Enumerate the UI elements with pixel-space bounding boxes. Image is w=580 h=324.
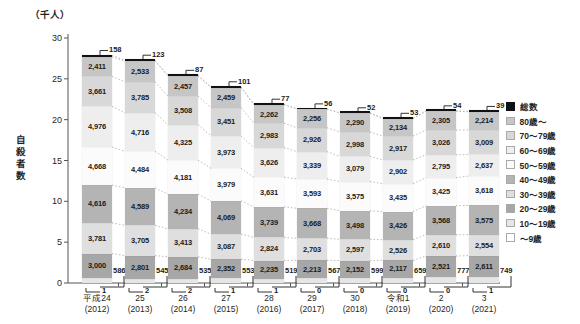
- segment-value: 3,451: [211, 117, 241, 126]
- chart-line: [456, 176, 469, 178]
- chart-line: [112, 55, 125, 60]
- bar-segment: [383, 117, 413, 119]
- segment-value: 3,339: [297, 161, 327, 170]
- segment-value: 3,668: [297, 219, 327, 228]
- legend-item: 80歳～: [506, 114, 556, 129]
- chart-line: [155, 60, 168, 75]
- cap-value: 123: [152, 50, 165, 59]
- chart-line: [284, 104, 297, 109]
- segment-value: 3,626: [254, 158, 284, 167]
- chart-line: [327, 109, 340, 113]
- annotation-bracket: [258, 288, 272, 292]
- segment-value: 2,152: [340, 265, 370, 274]
- segment-value: 3,973: [211, 148, 241, 157]
- legend-item: 50～59歳: [506, 157, 556, 172]
- value-10-19: 553: [242, 266, 255, 275]
- chart-line: [370, 113, 383, 118]
- legend-label: 総数: [520, 100, 538, 112]
- chart-line: [413, 256, 426, 260]
- value-10-19: 749: [500, 266, 513, 275]
- chart-line: [327, 109, 340, 113]
- chart-line: [284, 123, 297, 127]
- segment-value: 3,785: [125, 93, 155, 102]
- value-10-19: 586: [113, 266, 126, 275]
- annotation-bracket: [387, 288, 401, 292]
- chart-line: [456, 256, 469, 257]
- bar-segment: [211, 86, 241, 88]
- segment-value: 2,290: [340, 118, 370, 127]
- segment-value: 3,781: [82, 234, 112, 243]
- segment-value: 2,352: [211, 264, 241, 273]
- segment-value: 2,213: [297, 265, 327, 274]
- legend-label: 20～29歳: [520, 202, 557, 214]
- segment-value: 2,533: [125, 67, 155, 76]
- segment-value: 3,425: [426, 187, 456, 196]
- segment-value: 4,589: [125, 202, 155, 211]
- chart-line: [112, 254, 125, 256]
- segment-value: 2,117: [383, 264, 413, 273]
- chart-line: [198, 160, 211, 168]
- chart-line: [327, 238, 340, 239]
- chart-line: [112, 185, 125, 188]
- chart-line: [112, 147, 125, 151]
- segment-value: 3,026: [426, 138, 456, 147]
- segment-value: 2,611: [469, 262, 499, 271]
- annotation-bracket: [473, 288, 487, 292]
- legend-swatch: [506, 117, 515, 126]
- bar-segment: [426, 109, 456, 111]
- value-10-19: 519: [285, 266, 298, 275]
- y-tick-label: 25: [42, 74, 62, 84]
- legend-swatch: [506, 102, 515, 111]
- legend-item: 70～79歳: [506, 128, 556, 143]
- y-tick-label: 5: [42, 237, 62, 247]
- segment-value: 3,618: [469, 186, 499, 195]
- cap-value: 77: [281, 94, 289, 103]
- segment-value: 3,575: [340, 192, 370, 201]
- legend-label: 50～59歳: [520, 159, 557, 171]
- annotation-bracket: [215, 288, 229, 292]
- bar-segment: [297, 278, 327, 283]
- segment-value: 4,976: [82, 122, 112, 131]
- cap-value: 101: [238, 77, 251, 86]
- segment-value: 3,568: [426, 216, 456, 225]
- value-10-19: 599: [371, 266, 384, 275]
- bar-segment: [82, 278, 112, 283]
- western-year-label: (2021): [454, 304, 514, 315]
- y-tick-label: 15: [42, 156, 62, 166]
- chart-line: [284, 207, 297, 208]
- bar-segment: [211, 278, 241, 283]
- chart-line: [370, 156, 383, 160]
- chart-line: [370, 182, 383, 184]
- legend-swatch: [506, 219, 515, 228]
- chart-line: [155, 113, 168, 125]
- segment-value: 3,979: [211, 180, 241, 189]
- segment-value: 3,009: [469, 138, 499, 147]
- chart-line: [284, 177, 297, 179]
- segment-value: 2,235: [254, 265, 284, 274]
- legend-item: 20～29歳: [506, 201, 556, 216]
- bar-segment: [469, 110, 499, 112]
- annotation-bracket: [301, 288, 315, 292]
- chart-line: [155, 256, 168, 257]
- segment-value: 4,668: [82, 162, 112, 171]
- segment-value: 2,824: [254, 244, 284, 253]
- legend-swatch: [506, 204, 515, 213]
- legend-item: 30～39歳: [506, 187, 556, 202]
- cap-value: 53: [410, 108, 418, 117]
- chart-line: [155, 225, 168, 228]
- segment-value: 2,703: [297, 245, 327, 254]
- bar-segment: [383, 278, 413, 283]
- chart-line: [413, 155, 426, 160]
- segment-value: 3,631: [254, 188, 284, 197]
- chart-line: [284, 148, 297, 152]
- segment-value: 2,917: [383, 144, 413, 153]
- legend-label: 60～69歳: [520, 144, 557, 156]
- chart-line: [112, 106, 125, 112]
- bar-segment: [254, 103, 284, 105]
- chart-line: [241, 88, 254, 105]
- chart-line: [284, 105, 297, 110]
- era-year-label: 3: [454, 293, 514, 304]
- segment-value: 4,234: [168, 207, 198, 216]
- chart-line: [241, 201, 254, 207]
- segment-value: 2,411: [82, 62, 112, 71]
